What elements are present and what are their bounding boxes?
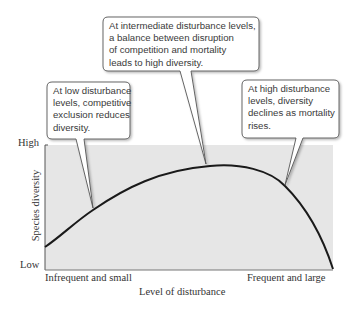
x-axis-right-label: Frequent and large bbox=[247, 272, 326, 283]
x-axis-left-label: Infrequent and small bbox=[45, 272, 132, 283]
y-axis-high-label: High bbox=[18, 137, 39, 148]
callout-low-text: At low disturbance levels, competitive e… bbox=[53, 85, 131, 134]
callout-high-text: At high disturbance levels, diversity de… bbox=[248, 83, 335, 132]
x-axis-title: Level of disturbance bbox=[139, 286, 225, 297]
diversity-disturbance-diagram: At intermediate disturbance levels, a ba… bbox=[0, 0, 359, 310]
y-axis-low-label: Low bbox=[20, 259, 39, 270]
callout-intermediate-text: At intermediate disturbance levels, a ba… bbox=[109, 20, 256, 69]
y-axis-title: Species diversity bbox=[30, 166, 41, 246]
